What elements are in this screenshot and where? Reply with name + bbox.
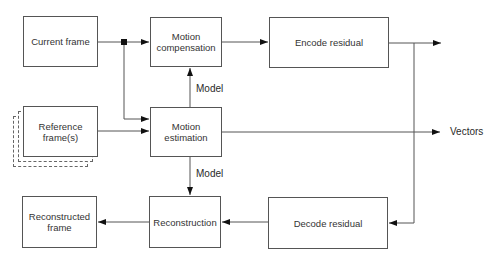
node-label: Motion compensation	[156, 31, 216, 53]
edge-label-model-upper: Model	[196, 83, 223, 94]
node-reference-frames: Reference frame(s)	[23, 106, 98, 157]
node-motion-compensation: Motion compensation	[150, 17, 222, 67]
node-reconstruction: Reconstruction	[149, 196, 221, 248]
node-encode-residual: Encode residual	[269, 17, 389, 68]
edge-label-vectors: Vectors	[450, 126, 483, 137]
node-current-frame: Current frame	[23, 16, 98, 67]
node-label: Motion estimation	[161, 121, 211, 143]
node-label: Decode residual	[294, 218, 363, 229]
node-label: Reconstructed frame	[27, 211, 93, 233]
junction-node	[121, 39, 127, 45]
edge-label-model-lower: Model	[196, 168, 223, 179]
node-decode-residual: Decode residual	[268, 197, 388, 249]
node-motion-estimation: Motion estimation	[150, 107, 222, 157]
node-label: Reconstruction	[153, 217, 216, 228]
node-label: Reference frame(s)	[36, 121, 86, 143]
node-reconstructed-frame: Reconstructed frame	[22, 196, 97, 248]
node-label: Encode residual	[295, 37, 363, 48]
node-label: Current frame	[31, 36, 90, 47]
